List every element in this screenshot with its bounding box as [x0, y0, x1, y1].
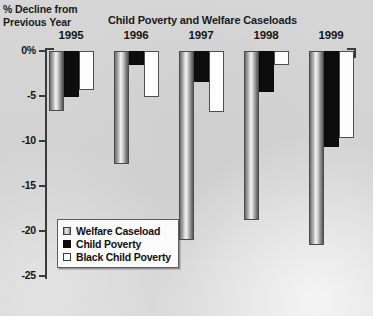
- legend-item-child-poverty: Child Poverty: [63, 237, 171, 250]
- legend-label: Black Child Poverty: [76, 251, 171, 263]
- y-tick--5: [39, 95, 47, 97]
- bar-1998-black-child-poverty: [274, 51, 289, 65]
- bar-1996-welfare-caseload: [114, 51, 129, 164]
- bar-1996-black-child-poverty: [144, 51, 159, 97]
- y-axis-title: % Decline from Previous Year: [3, 3, 121, 28]
- bar-1998-child-poverty: [259, 51, 274, 92]
- y-tick-label--20: -20: [0, 224, 36, 236]
- bar-1999-child-poverty: [324, 51, 339, 147]
- y-tick-label--15: -15: [0, 179, 36, 191]
- bar-1995-child-poverty: [64, 51, 79, 97]
- y-tick--25: [39, 275, 47, 277]
- y-tick-label-0: 0%: [0, 44, 36, 56]
- bar-1995-welfare-caseload: [49, 51, 64, 111]
- bar-1998-welfare-caseload: [244, 51, 259, 220]
- bar-1999-welfare-caseload: [309, 51, 324, 245]
- y-tick-0: [39, 50, 47, 52]
- bar-1995-black-child-poverty: [79, 51, 94, 90]
- chart-title: Child Poverty and Welfare Caseloads: [108, 14, 370, 26]
- x-axis-label-1999: 1999: [300, 29, 362, 41]
- y-tick-label--5: -5: [0, 89, 36, 101]
- y-tick-label--10: -10: [0, 134, 36, 146]
- y-tick--10: [39, 140, 47, 142]
- bar-1996-child-poverty: [129, 51, 144, 65]
- legend-swatch-icon-welfare: [63, 227, 71, 235]
- x-axis-label-1997: 1997: [170, 29, 232, 41]
- bar-1999-black-child-poverty: [339, 51, 354, 138]
- y-tick--20: [39, 230, 47, 232]
- chart-legend: Welfare CaseloadChild PovertyBlack Child…: [57, 219, 179, 268]
- legend-swatch-icon-child: [63, 240, 71, 248]
- bar-chart: % Decline from Previous Year Child Pover…: [0, 0, 373, 316]
- bar-1997-child-poverty: [194, 51, 209, 82]
- y-tick-label--25: -25: [0, 269, 36, 281]
- x-axis-label-1996: 1996: [105, 29, 167, 41]
- legend-item-welfare-caseload: Welfare Caseload: [63, 224, 171, 237]
- bar-1997-black-child-poverty: [209, 51, 224, 112]
- bar-1997-welfare-caseload: [179, 51, 194, 240]
- legend-label: Welfare Caseload: [76, 225, 160, 237]
- y-tick--15: [39, 185, 47, 187]
- legend-item-black-child-poverty: Black Child Poverty: [63, 250, 171, 263]
- x-axis-label-1998: 1998: [235, 29, 297, 41]
- legend-swatch-icon-black-child: [63, 253, 71, 261]
- x-axis-label-1995: 1995: [40, 29, 102, 41]
- legend-label: Child Poverty: [76, 238, 141, 250]
